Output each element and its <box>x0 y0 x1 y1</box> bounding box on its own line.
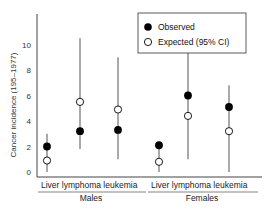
observed-legend-label: Observed <box>158 22 195 32</box>
observed-legend-icon <box>144 23 152 31</box>
y-tick-labels: 0246810 <box>22 41 31 178</box>
legend: Observed Expected (95% CI) <box>138 13 246 53</box>
data-markers <box>43 92 233 166</box>
y-tick-label: 6 <box>27 92 32 101</box>
expected-marker <box>225 128 232 135</box>
expected-marker <box>76 98 83 105</box>
observed-marker <box>184 92 192 100</box>
males-category-labels: Liver lymphoma leukemia <box>41 180 138 190</box>
error-bars <box>47 38 229 172</box>
expected-marker <box>184 112 191 119</box>
y-tick-label: 8 <box>27 66 32 75</box>
y-tick-label: 4 <box>27 117 32 126</box>
y-tick-label: 0 <box>27 168 32 177</box>
y-tick-label: 2 <box>27 143 32 152</box>
expected-legend-icon <box>144 38 151 45</box>
observed-marker <box>76 127 84 135</box>
observed-marker <box>225 103 233 111</box>
males-group-label: Males <box>80 193 103 203</box>
expected-marker <box>114 106 121 113</box>
females-group-label: Females <box>186 193 219 203</box>
y-axis-title: Cancer incidence (195–1977) <box>9 52 18 157</box>
y-tick-label: 10 <box>22 41 31 50</box>
chart: Cancer incidence (195–1977) 0246810 Live… <box>0 0 264 208</box>
expected-legend-label: Expected (95% CI) <box>158 37 230 47</box>
observed-marker <box>155 141 163 149</box>
expected-marker <box>43 157 50 164</box>
observed-marker <box>43 143 51 151</box>
observed-marker <box>114 126 122 134</box>
legend-box <box>138 13 246 53</box>
females-category-labels: Liver lymphoma leukemia <box>151 180 248 190</box>
expected-marker <box>155 158 162 165</box>
